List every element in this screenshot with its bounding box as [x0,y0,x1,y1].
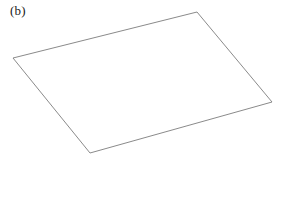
plane-diagram-canvas [0,0,283,207]
plane-outline-shape [13,12,272,153]
figure-panel: (b) [0,0,283,207]
